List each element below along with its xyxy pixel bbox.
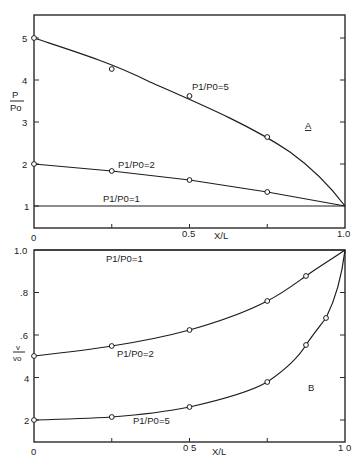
- x-tick-label: 0.5: [182, 228, 195, 239]
- y-tick-label: 4: [24, 373, 29, 384]
- x-tick-label: 0: [31, 446, 36, 457]
- series-p1p0-2: [34, 164, 345, 206]
- panel-a-y-tick-labels: 5 4 3 2 1: [22, 33, 29, 212]
- label-p1p0-5: P1/P0=5: [133, 415, 170, 426]
- y-tick-label: .8: [20, 287, 28, 298]
- x-axis-label: X/L: [214, 230, 228, 241]
- panel-b-points: [32, 274, 329, 423]
- y-tick-label: 2: [24, 415, 29, 426]
- y-tick-label: 3: [22, 117, 27, 128]
- panel-a-x-tick-labels: 0 0.5 1.0: [31, 228, 350, 243]
- y-tick-label: 1.0: [14, 245, 27, 256]
- x-tick-label: 1 0: [338, 442, 351, 453]
- svg-text:vo: vo: [13, 354, 22, 363]
- panel-b: 1.0 .8 .6 4 2 0 0 5 1 0 X/L v vo: [13, 245, 351, 457]
- series-p1p0-2: [34, 250, 345, 356]
- panel-a: 5 4 3 2 1 0 0.5 1.0 X/L P Po: [10, 15, 350, 243]
- y-tick-label: 1: [24, 201, 29, 212]
- panel-a-frame: [34, 15, 345, 228]
- label-p1p0-2: P1/P0=2: [117, 348, 154, 359]
- panel-label-a: A: [305, 120, 312, 131]
- y-axis-label: P Po: [10, 89, 24, 113]
- y-tick-label: 2: [22, 159, 27, 170]
- x-tick-label: 0: [31, 232, 36, 243]
- panel-label-b: B: [308, 382, 314, 393]
- label-p1p0-1: P1/P0=1: [103, 193, 140, 204]
- x-tick-label: 0 5: [183, 442, 196, 453]
- panel-a-points: [32, 36, 270, 195]
- svg-text:v: v: [16, 343, 20, 352]
- y-axis-label: v vo: [13, 343, 25, 363]
- y-tick-label: 4: [22, 75, 27, 86]
- svg-text:P: P: [12, 89, 18, 100]
- y-tick-label: 5: [22, 33, 27, 44]
- label-p1p0-1: P1/P0=1: [106, 253, 143, 264]
- panel-b-x-tick-labels: 0 0 5 1 0: [31, 442, 351, 457]
- panel-b-y-tick-labels: 1.0 .8 .6 4 2: [14, 245, 29, 426]
- label-p1p0-5: P1/P0=5: [192, 81, 229, 92]
- x-tick-label: 1.0: [337, 228, 350, 239]
- figure: 5 4 3 2 1 0 0.5 1.0 X/L P Po: [0, 0, 362, 465]
- series-p1p0-5: [34, 250, 345, 420]
- y-tick-label: .6: [20, 330, 28, 341]
- svg-text:Po: Po: [10, 102, 22, 113]
- panel-b-frame: [34, 250, 345, 442]
- x-axis-label: X/L: [212, 446, 226, 457]
- label-p1p0-2: P1/P0=2: [118, 159, 155, 170]
